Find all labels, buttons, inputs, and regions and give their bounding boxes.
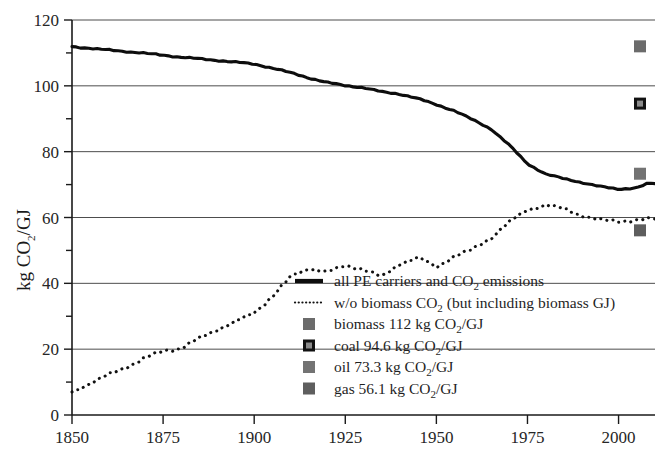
legend-swatch-coal-marker-inner [306, 343, 312, 349]
svg-text:kg CO2/GJ: kg CO2/GJ [13, 209, 37, 291]
x-tick-label-2000: 2000 [602, 428, 636, 447]
x-tick-label-1875: 1875 [146, 428, 180, 447]
legend-label-pre: biomass 112 kg CO [334, 315, 456, 332]
y-tick-label-120: 120 [34, 11, 60, 30]
legend-label-post: /GJ [441, 337, 463, 354]
reference-marker-biomass [634, 40, 646, 52]
reference-marker-oil [634, 168, 646, 180]
y-axis-title-post: /GJ [13, 209, 34, 235]
reference-marker-coal [634, 98, 646, 110]
y-axis-title-pre: kg CO [13, 241, 34, 291]
marker-square [634, 168, 646, 180]
x-tick-label-1950: 1950 [419, 428, 453, 447]
legend-label-pre: all PE carriers and CO [334, 272, 473, 289]
y-tick-label-40: 40 [42, 274, 59, 293]
y-tick-label-60: 60 [42, 209, 59, 228]
legend-swatch-oil-marker [303, 361, 315, 373]
legend-label-pre: gas 56.1 kg CO [334, 380, 430, 397]
y-tick-label-20: 20 [42, 340, 59, 359]
legend-label-post: (but including biomass GJ) [443, 294, 615, 312]
y-axis-title: kg CO2/GJ [13, 209, 37, 291]
chart-background [0, 0, 655, 449]
legend-label-post: /GJ [432, 358, 454, 375]
reference-marker-gas [634, 224, 646, 236]
marker-square [634, 224, 646, 236]
x-tick-label-1925: 1925 [328, 428, 362, 447]
x-tick-label-1850: 1850 [55, 428, 89, 447]
legend-label-pre: coal 94.6 kg CO [334, 337, 436, 354]
y-tick-label-0: 0 [51, 406, 60, 425]
legend-label-pre: oil 73.3 kg CO [334, 358, 426, 375]
chart-container: 020406080100120 185018751900192519501975… [0, 0, 655, 449]
x-tick-label-1975: 1975 [510, 428, 544, 447]
legend-label-post: emissions [479, 272, 544, 289]
legend-label-post: /GJ [436, 380, 458, 397]
x-tick-label-1900: 1900 [237, 428, 271, 447]
legend-swatch-gas-marker [303, 383, 315, 395]
y-tick-label-100: 100 [34, 77, 60, 96]
legend-label-pre: w/o biomass CO [334, 294, 437, 311]
marker-square [634, 40, 646, 52]
co2-intensity-line-chart: 020406080100120 185018751900192519501975… [0, 0, 655, 449]
legend-swatch-biomass-marker [303, 318, 315, 330]
marker-inner [637, 101, 643, 107]
legend-label-post: /GJ [462, 315, 484, 332]
y-tick-label-80: 80 [42, 143, 59, 162]
